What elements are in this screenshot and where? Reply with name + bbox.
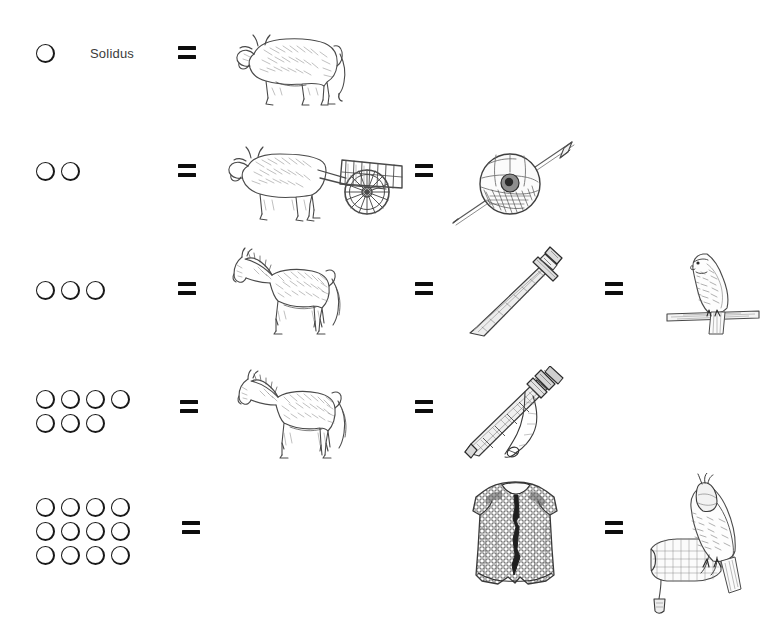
equals-icon-r3-c <box>605 282 623 296</box>
solidus-coin-icon <box>61 522 80 541</box>
equals-icon-r4-a <box>180 400 198 414</box>
solidus-equivalence-chart: Solidus <box>0 0 767 627</box>
equals-icon-r5-b <box>605 521 623 535</box>
cow-illustration <box>228 16 350 108</box>
sword-illustration <box>458 243 572 339</box>
coin-cluster-12 <box>36 498 140 570</box>
solidus-coin-icon <box>111 498 130 517</box>
solidus-coin-icon <box>86 414 105 433</box>
solidus-coin-icon <box>86 546 105 565</box>
horse-illustration <box>230 367 352 459</box>
solidus-coin-icon <box>61 281 80 300</box>
coin-cluster-7 <box>36 390 140 438</box>
solidus-coin-icon <box>36 162 55 181</box>
equals-icon-r3-b <box>415 282 433 296</box>
solidus-coin-icon <box>86 522 105 541</box>
falcon-perch-illustration <box>663 242 763 338</box>
solidus-coin-icon <box>36 281 55 300</box>
solidus-coin-icon <box>86 498 105 517</box>
equals-icon-r2-a <box>178 164 196 178</box>
solidus-coin-icon <box>36 522 55 541</box>
solidus-coin-icon <box>61 546 80 565</box>
mail-hauberk-illustration <box>458 477 572 589</box>
solidus-coin-icon <box>61 498 80 517</box>
scabbard-illustration <box>455 366 567 462</box>
solidus-coin-icon <box>111 522 130 541</box>
solidus-coin-icon <box>36 546 55 565</box>
solidus-coin-icon <box>111 546 130 565</box>
solidus-coin-icon <box>36 414 55 433</box>
coin-cluster-3 <box>36 281 126 305</box>
solidus-legend-label: Solidus <box>90 46 134 61</box>
equals-icon-r3-a <box>178 282 196 296</box>
solidus-coin-icon <box>61 162 80 181</box>
solidus-coin-icon <box>86 281 105 300</box>
equals-icon-r4-b <box>415 400 433 414</box>
solidus-coin-icon <box>111 390 130 409</box>
solidus-coin-icon <box>36 390 55 409</box>
solidus-coin-icon <box>61 390 80 409</box>
coin-cluster-1 <box>36 44 66 68</box>
falcon-glove-illustration <box>645 473 761 617</box>
solidus-coin-icon <box>86 390 105 409</box>
coin-cluster-2 <box>36 162 98 186</box>
equals-icon-r2-b <box>415 164 433 178</box>
solidus-coin-icon <box>61 414 80 433</box>
solidus-coin-icon <box>36 44 55 63</box>
equals-icon-r5-a <box>182 521 200 535</box>
horse-illustration <box>228 243 348 335</box>
shield-spear-illustration <box>444 134 580 232</box>
solidus-coin-icon <box>36 498 55 517</box>
equals-icon-r1-a <box>178 46 196 60</box>
ox-cart-illustration <box>226 140 408 222</box>
